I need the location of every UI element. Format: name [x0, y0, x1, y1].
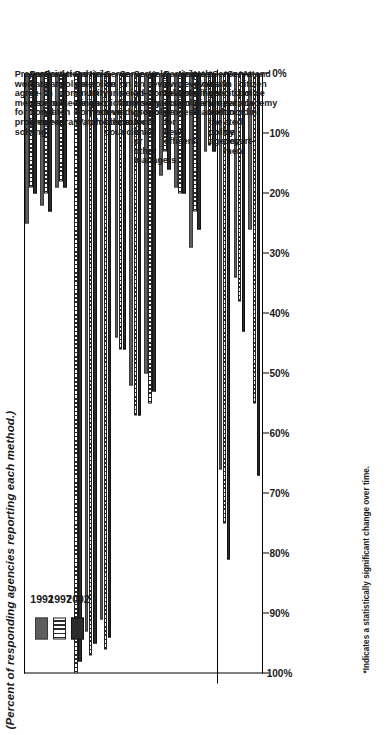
y-axis-tick-label: 60% [258, 428, 302, 439]
legend-item-2002[interactable]: 2002 [70, 587, 85, 639]
legend-swatch-icon [35, 617, 48, 639]
category-label-line: police [238, 88, 271, 98]
y-axis-tick-label: 30% [258, 248, 302, 259]
y-axis-tick-label: 40% [258, 308, 302, 319]
category-label-line: managers [134, 155, 167, 165]
bar-1997 [104, 73, 108, 649]
bar-2002 [78, 73, 82, 661]
category-label-line: officers [164, 136, 197, 146]
y-axis-tick-label: 20% [258, 188, 302, 199]
legend: 199219972002 [34, 587, 88, 639]
category-label-line: depart- [223, 136, 256, 146]
y-axis-tick-label: 10% [258, 128, 302, 139]
category-label-line: solving [15, 127, 48, 137]
legend-swatch-icon [53, 617, 66, 639]
category-label: *Attendcitizenpoliceacademy [238, 69, 271, 107]
bar-chart-figure: (Percent of responding agencies reportin… [0, 0, 388, 735]
category-group-separator [217, 69, 218, 683]
bar-2002 [257, 73, 261, 475]
category-label-line: academy [238, 98, 271, 108]
figure-stage: (Percent of responding agencies reportin… [0, 0, 388, 735]
legend-item-1997[interactable]: 1997 [52, 587, 67, 639]
legend-label: 2002 [66, 592, 89, 604]
category-label-line: for [164, 117, 197, 127]
y-axis-tick-label: 80% [258, 548, 302, 559]
category-label-line: ated [223, 117, 256, 127]
category-label-line: councils [104, 127, 137, 137]
footnote: *Indicates a statistically significant c… [362, 466, 371, 674]
category-label-line: program [45, 117, 78, 127]
bar-1997 [74, 73, 78, 673]
rotated-figure-wrapper: (Percent of responding agencies reportin… [0, 0, 388, 735]
bar-1992 [85, 73, 89, 631]
chart-title: (Percent of responding agencies reportin… [4, 410, 16, 729]
bar-1997 [89, 73, 93, 655]
bar-2002 [108, 73, 112, 637]
y-axis-tick-label: 70% [258, 488, 302, 499]
legend-item-1992[interactable]: 1992 [34, 587, 49, 639]
bar-1992 [100, 73, 104, 619]
category-label-line: *Attend [238, 69, 271, 79]
bar-2002 [93, 73, 97, 643]
y-axis-tick-label: 90% [258, 608, 302, 619]
category-label-line: or [134, 136, 167, 146]
category-label-line: for [134, 117, 167, 127]
y-axis-tick-label: 50% [258, 368, 302, 379]
category-label-line: ment [223, 146, 256, 156]
legend-swatch-icon [71, 617, 84, 639]
y-axis-tick-label: 100% [258, 668, 302, 679]
